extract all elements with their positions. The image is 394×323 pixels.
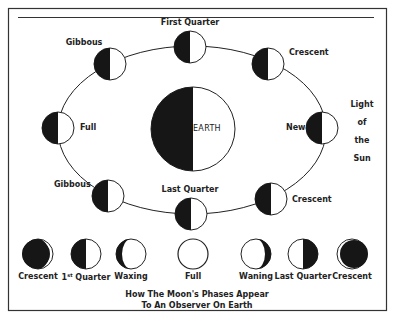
label-crescent-upper: Crescent — [289, 49, 329, 57]
earth-label: EARTH — [193, 125, 221, 133]
phase-label-waning: Waning — [239, 273, 273, 281]
quarter-word: Quarter — [73, 273, 111, 282]
phase-crescent-waning-icon — [337, 239, 368, 269]
sunlight-label: Light of the Sun — [347, 96, 377, 168]
orbit-moon-crescent-upper-icon — [252, 48, 284, 80]
phase-label-first-quarter: 1st Quarter — [62, 273, 111, 282]
phase-label-crescent-1: Crescent — [18, 273, 58, 281]
phase-full-icon — [178, 239, 208, 269]
caption-line-2: To An Observer On Earth — [0, 300, 394, 312]
phase-crescent-waxing-icon — [22, 239, 53, 269]
phase-waning-gibbous-icon — [241, 239, 271, 269]
label-gibbous-upper: Gibbous — [66, 39, 103, 47]
label-crescent-lower: Crescent — [292, 196, 332, 204]
sun-line-4: Sun — [347, 150, 377, 168]
sun-line-2: of — [347, 114, 377, 132]
phase-label-crescent-2: Crescent — [332, 273, 372, 281]
orbit-moon-new-icon — [306, 112, 338, 144]
phase-waxing-gibbous-icon — [116, 239, 146, 269]
orbit-moon-gibbous-upper-icon — [94, 48, 126, 80]
label-full: Full — [80, 124, 96, 132]
orbit-moon-last-quarter-icon — [175, 198, 207, 230]
phase-first-quarter-icon — [71, 239, 101, 269]
label-first-quarter: First Quarter — [161, 19, 220, 27]
label-new: New — [286, 124, 306, 132]
phase-label-full: Full — [185, 273, 201, 281]
phase-label-waxing: Waxing — [114, 273, 147, 281]
orbit-moon-full-icon — [42, 112, 74, 144]
moon-phases-diagram: First Quarter Gibbous Crescent Full New … — [0, 0, 394, 323]
label-gibbous-lower: Gibbous — [54, 181, 91, 189]
sun-line-3: the — [347, 132, 377, 150]
label-last-quarter: Last Quarter — [162, 186, 219, 194]
orbit-moon-crescent-lower-icon — [255, 183, 287, 215]
sun-line-1: Light — [347, 96, 377, 114]
phase-label-last-quarter: Last Quarter — [275, 273, 332, 281]
orbit-moon-gibbous-lower-icon — [92, 180, 124, 212]
orbit-moon-first-quarter-icon — [174, 31, 206, 63]
phase-last-quarter-icon — [288, 239, 318, 269]
